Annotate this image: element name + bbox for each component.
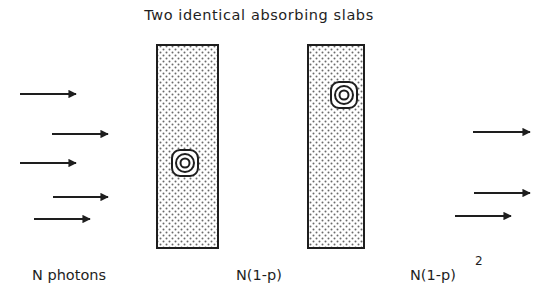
label-after-slab-2-exponent: 2: [475, 254, 483, 268]
absorber-atom-icon: [172, 150, 198, 176]
absorber-atom-icon: [331, 82, 357, 108]
label-incident-photons: N photons: [32, 267, 106, 283]
label-after-slab-1: N(1-p): [236, 267, 282, 283]
absorbing-slabs-diagram: Two identical absorbing slabs N photons: [0, 0, 551, 301]
incident-photon-arrows: [20, 94, 108, 219]
diagram-title: Two identical absorbing slabs: [143, 7, 374, 23]
slab-2: [308, 45, 364, 248]
slab-2-body: [308, 45, 364, 248]
label-after-slab-2: N(1-p): [410, 267, 456, 283]
transmitted-photon-arrows: [455, 132, 530, 216]
slab-1-body: [157, 45, 218, 248]
slab-1: [157, 45, 218, 248]
